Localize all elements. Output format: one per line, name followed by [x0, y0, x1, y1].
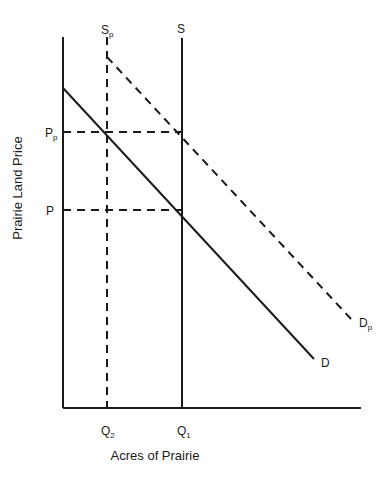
label-pp: Pp [45, 126, 58, 142]
label-q1: Q1 [177, 424, 191, 440]
label-s: S [177, 22, 185, 36]
y-axis-label: Prairie Land Price [10, 136, 25, 239]
supply-demand-diagram: Sp S D Dp Pp P Q2 Q1 Acres of Prairie Pr… [0, 0, 386, 482]
label-d: D [321, 356, 330, 370]
label-sp: Sp [101, 23, 114, 39]
label-q2: Q2 [101, 424, 115, 440]
demand-curve-dp [107, 57, 352, 320]
demand-curve-d [63, 88, 314, 359]
label-dp: Dp [359, 316, 373, 332]
label-p: P [46, 204, 54, 218]
x-axis-label: Acres of Prairie [111, 448, 200, 463]
